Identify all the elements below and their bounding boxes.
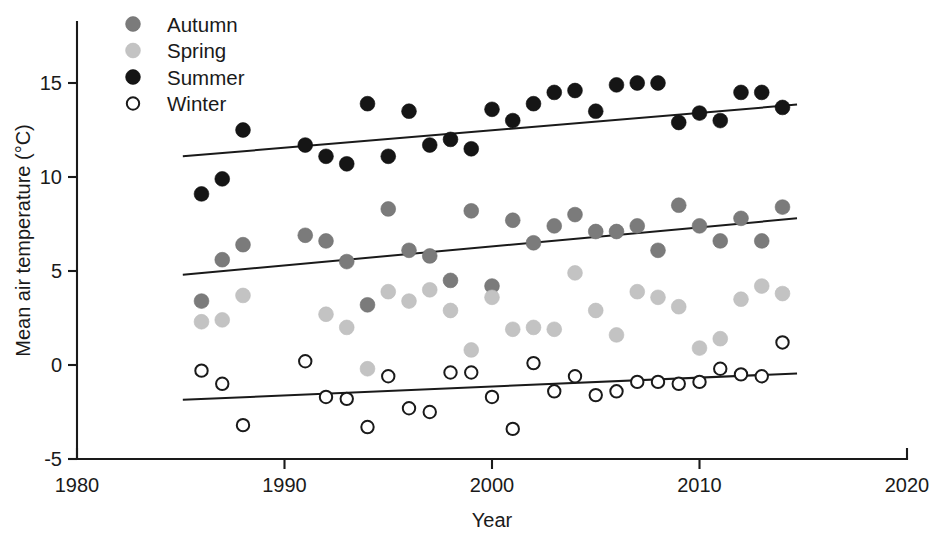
point-winter-2008 xyxy=(652,376,664,388)
legend-label-summer: Summer xyxy=(167,66,245,89)
trend-lines xyxy=(183,105,797,400)
point-autumn-1991 xyxy=(298,228,313,243)
point-winter-1997 xyxy=(424,406,436,418)
point-autumn-2014 xyxy=(775,200,790,215)
point-spring-1996 xyxy=(402,294,417,309)
legend-label-spring: Spring xyxy=(167,39,226,62)
y-axis-title: Mean air temperature (°C) xyxy=(12,124,34,357)
point-summer-2008 xyxy=(651,76,666,91)
point-spring-2004 xyxy=(568,265,583,280)
legend-label-autumn: Autumn xyxy=(167,13,238,36)
point-autumn-1997 xyxy=(422,249,437,264)
point-summer-2002 xyxy=(526,96,541,111)
y-tick-label-10: 10 xyxy=(40,166,62,188)
scatter-plot-canvas: -505101519801990200020102020YearMean air… xyxy=(0,0,947,540)
point-spring-2002 xyxy=(526,320,541,335)
point-summer-2001 xyxy=(505,113,520,128)
point-summer-1986 xyxy=(194,187,209,202)
point-summer-2011 xyxy=(713,113,728,128)
point-winter-1996 xyxy=(403,402,415,414)
point-spring-2000 xyxy=(485,290,500,305)
point-winter-2013 xyxy=(756,370,768,382)
point-summer-2004 xyxy=(568,83,583,98)
legend-marker-winter xyxy=(127,97,139,109)
axis-labels: -505101519801990200020102020YearMean air… xyxy=(12,72,929,531)
point-winter-1994 xyxy=(361,421,373,433)
y-tick-label-0: 0 xyxy=(51,354,62,376)
point-winter-2009 xyxy=(673,378,685,390)
legend-marker-summer xyxy=(126,70,141,85)
point-autumn-2010 xyxy=(692,218,707,233)
point-winter-2003 xyxy=(548,385,560,397)
point-spring-2003 xyxy=(547,322,562,337)
point-spring-1995 xyxy=(381,284,396,299)
point-winter-1991 xyxy=(299,355,311,367)
point-spring-1994 xyxy=(360,361,375,376)
legend: AutumnSpringSummerWinter xyxy=(126,13,245,116)
point-spring-2011 xyxy=(713,331,728,346)
point-summer-1988 xyxy=(236,123,251,138)
point-winter-1999 xyxy=(465,366,477,378)
point-summer-1998 xyxy=(443,132,458,147)
point-autumn-2003 xyxy=(547,218,562,233)
x-tick-label-1990: 1990 xyxy=(262,474,307,496)
x-tick-label-2020: 2020 xyxy=(885,474,930,496)
point-autumn-1993 xyxy=(339,254,354,269)
point-autumn-2002 xyxy=(526,235,541,250)
point-autumn-2005 xyxy=(588,224,603,239)
point-summer-2005 xyxy=(588,104,603,119)
point-spring-2009 xyxy=(671,299,686,314)
point-autumn-2008 xyxy=(651,243,666,258)
point-winter-1992 xyxy=(320,391,332,403)
point-summer-2000 xyxy=(485,102,500,117)
point-winter-2002 xyxy=(527,357,539,369)
point-spring-2010 xyxy=(692,341,707,356)
point-summer-2003 xyxy=(547,85,562,100)
point-summer-1992 xyxy=(319,149,334,164)
chart-figure: -505101519801990200020102020YearMean air… xyxy=(0,0,947,540)
point-spring-1992 xyxy=(319,307,334,322)
point-autumn-2009 xyxy=(671,198,686,213)
point-spring-1997 xyxy=(422,282,437,297)
point-winter-2001 xyxy=(507,423,519,435)
point-spring-1987 xyxy=(215,312,230,327)
legend-label-winter: Winter xyxy=(167,92,226,115)
point-autumn-1988 xyxy=(236,237,251,252)
point-autumn-2012 xyxy=(734,211,749,226)
point-autumn-1995 xyxy=(381,202,396,217)
point-summer-1993 xyxy=(339,156,354,171)
point-autumn-2001 xyxy=(505,213,520,228)
point-winter-1987 xyxy=(216,378,228,390)
point-spring-1999 xyxy=(464,343,479,358)
y-tick-label-15: 15 xyxy=(40,72,62,94)
point-spring-2001 xyxy=(505,322,520,337)
point-spring-1993 xyxy=(339,320,354,335)
point-autumn-1998 xyxy=(443,273,458,288)
point-summer-2006 xyxy=(609,77,624,92)
y-tick-label-5: 5 xyxy=(51,260,62,282)
point-summer-1991 xyxy=(298,138,313,153)
point-spring-2013 xyxy=(754,279,769,294)
point-summer-1999 xyxy=(464,141,479,156)
point-summer-1996 xyxy=(402,104,417,119)
point-summer-2014 xyxy=(775,100,790,115)
point-winter-2007 xyxy=(631,376,643,388)
point-spring-1998 xyxy=(443,303,458,318)
point-winter-2010 xyxy=(693,376,705,388)
point-autumn-2013 xyxy=(754,234,769,249)
point-spring-1988 xyxy=(236,288,251,303)
y-tick-label--5: -5 xyxy=(44,448,62,470)
x-axis-title: Year xyxy=(472,509,513,531)
legend-marker-autumn xyxy=(126,17,141,32)
point-summer-2012 xyxy=(734,85,749,100)
point-autumn-1996 xyxy=(402,243,417,258)
point-autumn-2011 xyxy=(713,234,728,249)
point-winter-1986 xyxy=(195,364,207,376)
point-winter-2000 xyxy=(486,391,498,403)
x-tick-label-2000: 2000 xyxy=(470,474,515,496)
point-autumn-1994 xyxy=(360,297,375,312)
point-summer-1995 xyxy=(381,149,396,164)
point-spring-2006 xyxy=(609,328,624,343)
point-autumn-1999 xyxy=(464,203,479,218)
point-winter-2006 xyxy=(610,385,622,397)
